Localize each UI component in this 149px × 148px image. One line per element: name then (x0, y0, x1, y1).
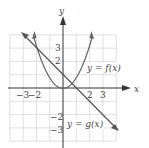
x-axis-arrow-icon (122, 85, 131, 91)
y-tick-3: 3 (55, 43, 61, 53)
y-axis-label: y (58, 6, 65, 16)
y-tick-minus3: −3 (50, 125, 64, 135)
g-left-arrow-icon (21, 32, 29, 39)
x-tick-2: 2 (87, 90, 93, 100)
y-axis-arrow-icon (60, 16, 66, 25)
y-tick-2: 2 (55, 56, 61, 66)
x-tick-minus2: −2 (28, 90, 41, 100)
g-line (24, 35, 116, 128)
f-curve-label: y = f(x) (86, 63, 121, 73)
graph: y x −3 −2 2 3 3 2 −2 −3 y = f(x) y = g(x… (0, 0, 149, 148)
x-tick-3: 3 (100, 90, 106, 100)
x-axis-label: x (134, 84, 139, 94)
g-line-label: y = g(x) (66, 119, 104, 129)
y-tick-minus2: −2 (50, 112, 63, 122)
g-right-arrow-icon (111, 124, 119, 131)
